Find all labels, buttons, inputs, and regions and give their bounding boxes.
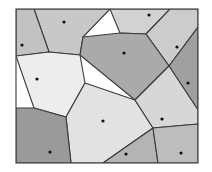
seed-point-2 [147,13,150,16]
cell-10 [16,108,71,163]
seed-point-9 [160,117,163,120]
seed-point-1 [62,20,65,23]
seed-point-8 [101,119,104,122]
seed-point-4 [175,45,178,48]
seed-point-11 [124,152,127,155]
seed-point-5 [122,51,125,54]
voronoi-canvas [0,0,212,172]
seed-point-3 [20,43,23,46]
seed-point-10 [48,150,51,153]
voronoi-figure [0,0,212,172]
cell-12 [153,124,198,163]
seed-point-7 [186,81,189,84]
seed-point-6 [35,77,38,80]
seed-point-12 [179,151,182,154]
